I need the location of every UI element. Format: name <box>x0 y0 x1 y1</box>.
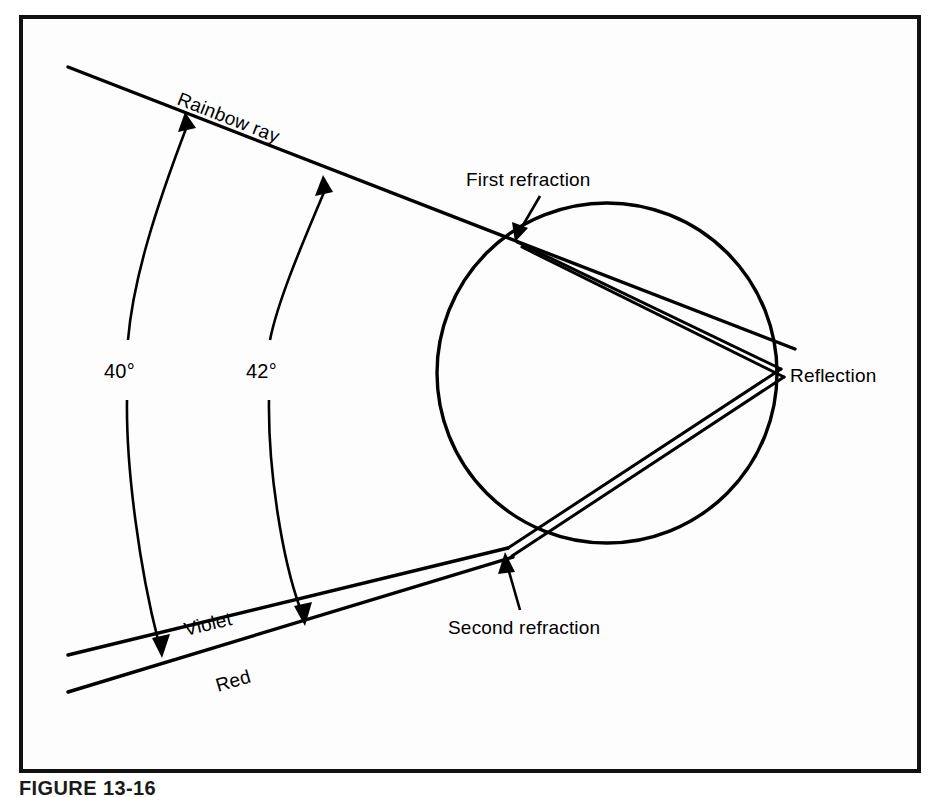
label-reflection: Reflection <box>790 365 877 386</box>
figure-caption: FIGURE 13-16 <box>19 777 156 797</box>
label-second-refraction: Second refraction <box>448 617 600 638</box>
label-angle-40: 40° <box>104 360 135 382</box>
label-angle-42: 42° <box>246 360 277 382</box>
figure-root: Rainbow ray First refraction Reflection … <box>0 0 937 797</box>
figure-border <box>21 17 919 771</box>
label-first-refraction: First refraction <box>466 169 591 190</box>
rainbow-ray-diagram: Rainbow ray First refraction Reflection … <box>0 0 937 797</box>
